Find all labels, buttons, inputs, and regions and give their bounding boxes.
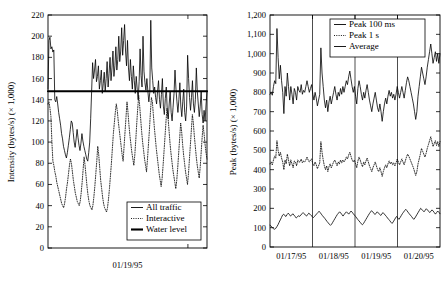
y-tick-label: 160 — [31, 74, 44, 84]
y-tick-label: 500 — [253, 145, 266, 155]
legend-label: Peak 1 s — [349, 30, 379, 40]
two-panel-figure: 020406080100120140160180200220Intensity … — [0, 0, 442, 282]
y-tick-label: 100 — [253, 223, 266, 233]
y-tick-label: 20 — [36, 222, 45, 232]
y-tick-label: 120 — [31, 116, 44, 126]
x-axis-label: 01/19/95 — [112, 260, 142, 270]
y-tick-label: 180 — [31, 52, 44, 62]
panel-left: 020406080100120140160180200220Intensity … — [6, 10, 207, 270]
x-tick-label: 01/18/95 — [319, 251, 349, 261]
y-tick-label: 200 — [31, 31, 44, 41]
legend-label: Peak 100 ms — [349, 19, 395, 29]
y-tick-label: 1,000 — [247, 49, 266, 59]
y-tick-label: 700 — [253, 107, 266, 117]
y-tick-label: 0 — [262, 242, 266, 252]
series-line — [48, 95, 207, 212]
y-tick-label: 200 — [253, 203, 266, 213]
figure-root: 020406080100120140160180200220Intensity … — [0, 0, 442, 282]
legend-label: Water level — [146, 224, 188, 234]
panel-right: 01002003004005006007008009001,0001,1001,… — [228, 10, 440, 261]
y-tick-label: 1,200 — [247, 10, 266, 20]
y-tick-label: 600 — [253, 126, 266, 136]
legend-label: Interactive — [146, 213, 184, 223]
y-tick-label: 0 — [40, 243, 44, 253]
y-tick-label: 140 — [31, 95, 44, 105]
y-tick-label: 40 — [36, 201, 45, 211]
y-tick-label: 80 — [36, 158, 45, 168]
y-axis-title: Peak (bytes/s) (× 1,000) — [228, 89, 238, 176]
y-tick-label: 60 — [36, 179, 45, 189]
y-axis-title: Intensity (bytes/s) (× 1,000) — [6, 82, 16, 183]
y-tick-label: 400 — [253, 165, 266, 175]
y-tick-label: 100 — [31, 137, 44, 147]
x-tick-label: 01/20/95 — [404, 251, 434, 261]
y-tick-label: 220 — [31, 10, 44, 20]
figure-canvas: 020406080100120140160180200220Intensity … — [0, 0, 442, 282]
y-tick-label: 1,100 — [247, 29, 266, 39]
x-tick-label: 01/19/95 — [361, 251, 391, 261]
y-tick-label: 300 — [253, 184, 266, 194]
legend-label: All traffic — [146, 202, 182, 212]
legend-label: Average — [349, 41, 379, 51]
y-tick-label: 900 — [253, 68, 266, 78]
y-tick-label: 800 — [253, 87, 266, 97]
x-tick-label: 01/17/95 — [276, 251, 306, 261]
